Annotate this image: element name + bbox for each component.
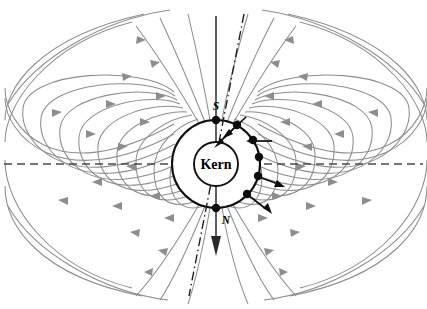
- probe-dot-4: [254, 172, 262, 180]
- pole-label-south: S: [213, 100, 219, 112]
- pole-marker-north: [212, 204, 220, 212]
- core-label: Kern: [200, 157, 231, 172]
- pole-label-north: N: [221, 214, 231, 226]
- probe-dot-3: [255, 153, 263, 161]
- magnetic-field-diagram: Kern S N: [0, 0, 427, 309]
- pole-marker-south: [212, 116, 220, 124]
